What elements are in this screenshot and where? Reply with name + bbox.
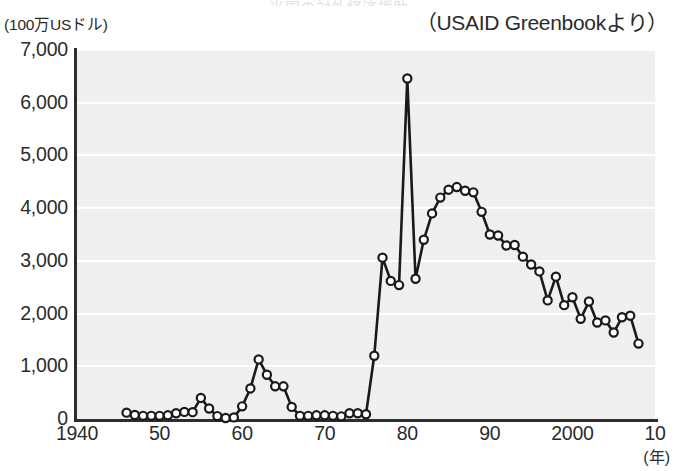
data-point-marker: [585, 297, 593, 305]
x-tick-label: 80: [367, 422, 447, 445]
data-point-marker: [147, 412, 155, 420]
data-point-marker: [544, 296, 552, 304]
data-point-marker: [527, 260, 535, 268]
data-point-marker: [436, 194, 444, 202]
data-point-marker: [444, 186, 452, 194]
data-point-marker: [453, 183, 461, 191]
data-point-marker: [577, 315, 585, 323]
y-tick-label: 3,000: [0, 249, 68, 272]
data-point-marker: [601, 316, 609, 324]
data-point-marker: [304, 412, 312, 420]
y-tick-label: 1,000: [0, 354, 68, 377]
y-tick-label: 4,000: [0, 196, 68, 219]
data-point-marker: [354, 409, 362, 417]
x-tick-label: 90: [450, 422, 530, 445]
x-tick-label: 50: [120, 422, 200, 445]
data-point-marker: [230, 413, 238, 421]
y-tick-label: 5,000: [0, 143, 68, 166]
data-point-marker: [222, 414, 230, 422]
data-point-marker: [312, 411, 320, 419]
data-point-marker: [560, 301, 568, 309]
chart-figure: 米国の対外経済援助 (100万USドル) （USAID Greenbookより）…: [0, 0, 678, 471]
data-point-marker: [370, 352, 378, 360]
data-point-marker: [387, 277, 395, 285]
data-point-marker: [131, 411, 139, 419]
data-point-marker: [180, 408, 188, 416]
data-point-marker: [535, 267, 543, 275]
data-point-marker: [626, 312, 634, 320]
data-point-marker: [362, 410, 370, 418]
y-tick-label: 6,000: [0, 91, 68, 114]
data-point-marker: [255, 355, 263, 363]
data-point-marker: [618, 313, 626, 321]
data-point-marker: [610, 328, 618, 336]
data-point-marker: [486, 230, 494, 238]
data-point-marker: [469, 188, 477, 196]
data-point-marker: [321, 411, 329, 419]
data-point-marker: [478, 208, 486, 216]
series-line: [127, 78, 639, 417]
data-series-line: [77, 50, 655, 419]
data-point-marker: [329, 412, 337, 420]
data-point-marker: [345, 409, 353, 417]
data-point-marker: [155, 412, 163, 420]
data-point-marker: [411, 275, 419, 283]
data-point-marker: [568, 293, 576, 301]
source-label: （USAID Greenbookより）: [416, 6, 668, 36]
data-point-marker: [378, 254, 386, 262]
data-point-marker: [263, 371, 271, 379]
x-axis-unit-label: (年): [643, 444, 670, 468]
data-point-marker: [238, 402, 246, 410]
data-point-marker: [461, 187, 469, 195]
y-axis-unit-label: (100万USドル): [4, 12, 108, 34]
data-point-marker: [213, 412, 221, 420]
data-point-marker: [593, 318, 601, 326]
data-point-marker: [502, 241, 510, 249]
data-point-marker: [634, 340, 642, 348]
data-point-marker: [296, 412, 304, 420]
data-point-marker: [139, 412, 147, 420]
data-point-marker: [164, 411, 172, 419]
data-point-marker: [189, 408, 197, 416]
y-tick-label: 7,000: [0, 38, 68, 61]
data-point-marker: [205, 404, 213, 412]
x-tick-label: 60: [202, 422, 282, 445]
data-point-marker: [428, 209, 436, 217]
x-tick-label: 2000: [532, 422, 612, 445]
y-tick-label: 2,000: [0, 302, 68, 325]
data-point-marker: [337, 412, 345, 420]
data-point-marker: [420, 236, 428, 244]
x-tick-label: 10: [615, 422, 678, 445]
data-point-marker: [172, 409, 180, 417]
data-point-marker: [403, 74, 411, 82]
data-point-marker: [511, 241, 519, 249]
data-point-marker: [288, 403, 296, 411]
data-point-marker: [271, 382, 279, 390]
data-point-marker: [122, 409, 130, 417]
plot-area: [77, 50, 655, 419]
data-point-marker: [494, 231, 502, 239]
data-point-marker: [279, 382, 287, 390]
data-point-marker: [519, 253, 527, 261]
data-point-marker: [395, 281, 403, 289]
x-tick-label: 70: [285, 422, 365, 445]
data-point-marker: [552, 273, 560, 281]
data-point-marker: [246, 384, 254, 392]
x-tick-label: 1940: [37, 422, 117, 445]
data-point-marker: [197, 394, 205, 402]
